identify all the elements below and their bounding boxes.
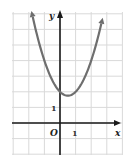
y-axis	[57, 10, 63, 155]
origin-label: O	[50, 128, 58, 138]
x-axis-arrow-icon	[114, 120, 121, 126]
x-tick-label: 1	[72, 128, 78, 138]
curve-arrow-right-icon	[98, 18, 104, 25]
parabola-graph: y x O 1 1	[0, 0, 129, 160]
x-axis-label: x	[114, 128, 121, 138]
y-tick-label: 1	[51, 103, 57, 113]
y-axis-label: y	[48, 11, 55, 21]
grid	[12, 12, 122, 155]
